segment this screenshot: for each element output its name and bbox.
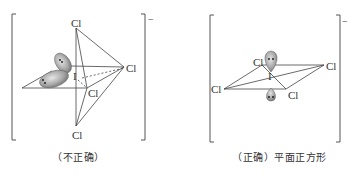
atom-i-center: I [268, 70, 272, 82]
atom-cl-front: Cl [88, 87, 98, 99]
right-bracket [141, 14, 145, 140]
lone-pair-lobes [37, 50, 75, 91]
atom-cl-bottom: Cl [72, 129, 82, 141]
atom-i-center: I [73, 70, 77, 82]
correct-structure: − Cl Cl I Cl Cl [210, 15, 348, 142]
atom-cl-top: Cl [71, 17, 81, 29]
left-bracket [210, 15, 214, 142]
left-bracket [12, 14, 16, 140]
atom-cl-top-left: Cl [253, 56, 263, 68]
incorrect-caption: （不正确） [52, 149, 105, 164]
charge-label: − [342, 16, 348, 27]
incorrect-structure: − Cl Cl I Cl Cl [12, 14, 154, 141]
atom-cl-left: Cl [211, 83, 221, 95]
right-bracket [336, 15, 340, 142]
charge-label: − [148, 14, 154, 25]
atom-cl-right: Cl [326, 60, 336, 72]
correct-caption: （正确）平面正方形 [232, 149, 327, 164]
atom-cl-right: Cl [126, 62, 136, 74]
atom-cl-bottom-right: Cl [288, 89, 298, 101]
